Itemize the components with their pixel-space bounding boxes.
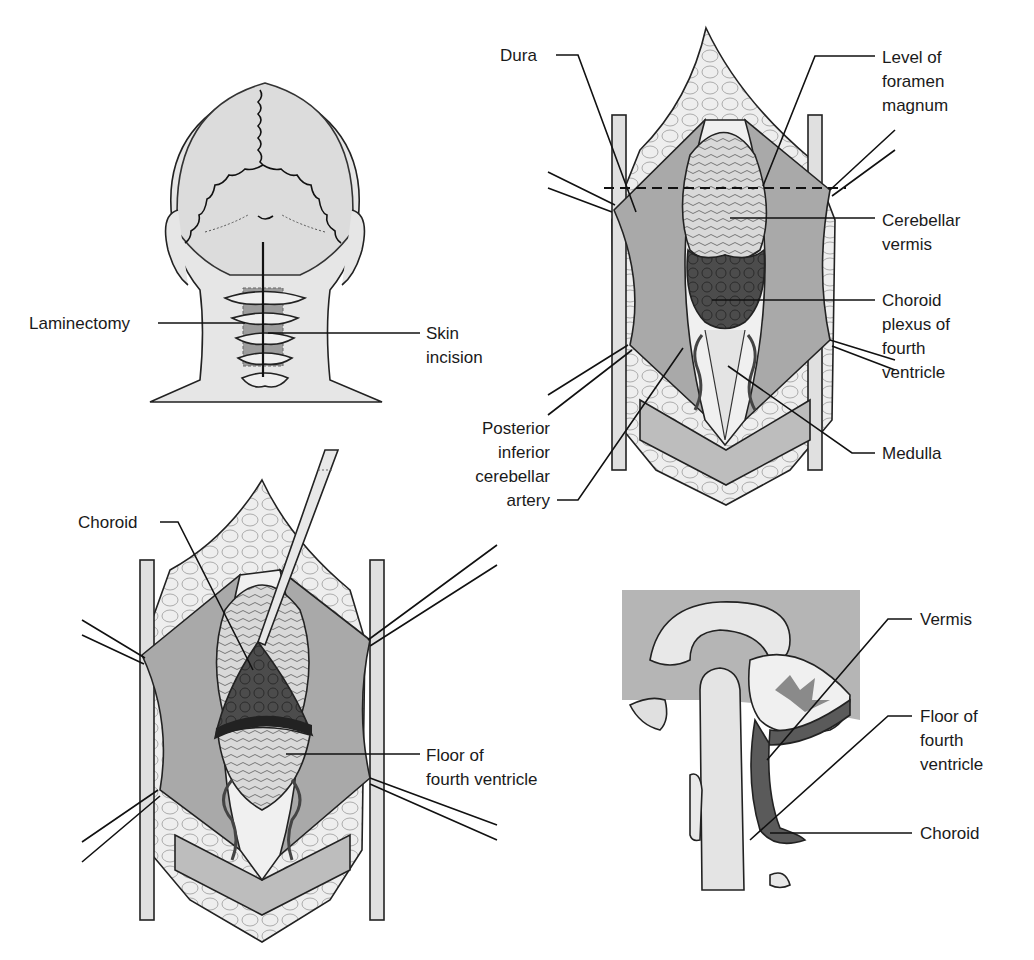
label-skin-incision: Skinincision — [426, 324, 483, 367]
panel-head-posterior — [150, 83, 420, 402]
label-pica: Posteriorinferiorcerebellarartery — [475, 419, 550, 510]
label-medulla: Medulla — [882, 444, 942, 463]
label-choroid-sagittal: Choroid — [920, 824, 980, 843]
label-floor-fourth-ventricle-op: Floor offourth ventricle — [426, 746, 538, 789]
label-level-foramen-magnum: Level offoramenmagnum — [882, 48, 948, 115]
label-choroid-plexus: Choroidplexus offourthventricle — [882, 291, 950, 382]
label-vermis: Vermis — [920, 610, 972, 629]
label-laminectomy: Laminectomy — [29, 314, 131, 333]
label-floor-fourth-ventricle-sagittal: Floor offourthventricle — [920, 707, 983, 774]
panel-dura-opened — [548, 28, 895, 505]
label-choroid-retracted: Choroid — [78, 513, 138, 532]
figure-canvas: Laminectomy Skinincision — [0, 0, 1034, 960]
label-cerebellar-vermis: Cerebellarvermis — [882, 211, 961, 254]
label-dura: Dura — [500, 46, 537, 65]
panel-choroid-retracted — [82, 450, 497, 942]
panel-sagittal-section — [622, 590, 912, 890]
